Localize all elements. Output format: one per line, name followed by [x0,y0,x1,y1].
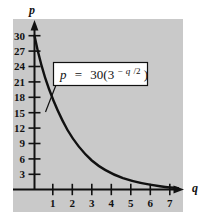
x-tick-label: 7 [167,197,173,209]
x-tick-label: 6 [148,197,154,209]
callout-closing: ) [144,67,148,82]
y-tick-label: 27 [14,45,26,57]
x-tick-label: 1 [50,197,56,209]
x-tick-label: 2 [70,197,76,209]
exponential-decay-figure: 3 6 9 12 15 18 21 24 27 30 1 2 3 4 5 6 7… [0,0,204,220]
y-tick-label: 21 [14,76,25,88]
callout-exponent-var: q [126,66,131,76]
equation-callout: p = 30(3 − q /2 ) [54,62,149,86]
callout-lhs: p [59,67,67,82]
x-tick-label: 3 [89,197,95,209]
y-axis-label: p [28,3,35,17]
y-tick-label: 18 [14,91,26,103]
x-tick-label: 5 [128,197,134,209]
y-tick-label: 3 [20,168,26,180]
x-axis-label: q [192,181,198,195]
y-tick-label: 6 [20,153,26,165]
plot-panel [13,19,183,212]
y-tick-label: 30 [14,30,26,42]
x-tick-label: 4 [109,197,115,209]
callout-exponent-denominator: /2 [134,66,141,76]
callout-equals: = [75,67,82,82]
y-tick-label: 12 [14,122,26,134]
y-tick-label: 9 [20,137,26,149]
callout-exponent-sign: − [117,66,122,76]
callout-coefficient: 30(3 [90,67,114,82]
y-tick-label: 15 [14,107,26,119]
y-tick-label: 24 [14,60,26,72]
